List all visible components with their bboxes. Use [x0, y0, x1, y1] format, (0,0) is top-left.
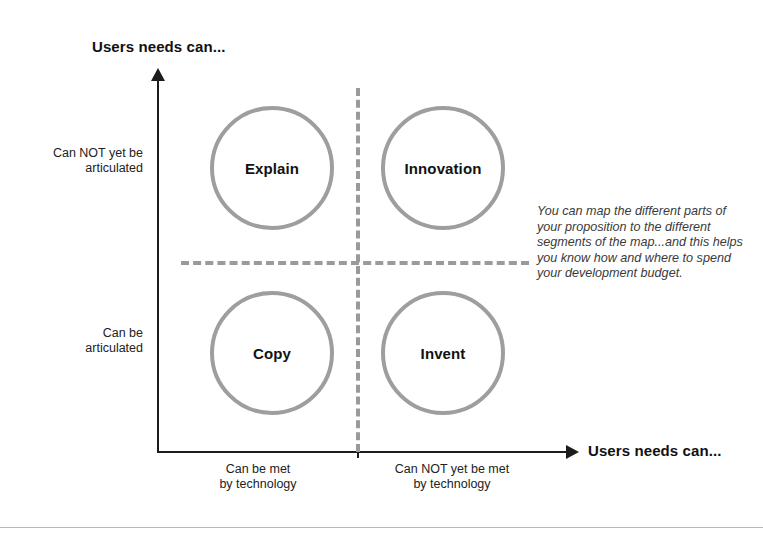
quadrant-label-explain: Explain: [245, 160, 299, 177]
x-axis-midpoint-tick: [357, 451, 359, 458]
vertical-divider-dashed: [356, 88, 360, 452]
y-axis-title: Users needs can...: [92, 38, 226, 55]
quadrant-label-copy: Copy: [253, 345, 291, 362]
x-axis-tick-left-line1: Can be met: [184, 462, 332, 477]
quadrant-label-invent: Invent: [421, 345, 466, 362]
y-axis-tick-upper-line2: articulated: [0, 161, 143, 176]
quadrant-bubble-invent[interactable]: Invent: [381, 291, 505, 415]
x-axis-tick-right-line2: by technology: [366, 477, 538, 492]
y-axis-arrow-icon: [151, 68, 165, 81]
x-axis-tick-right-line1: Can NOT yet be met: [366, 462, 538, 477]
y-axis-tick-lower-line2: articulated: [0, 341, 143, 356]
x-axis-title: Users needs can...: [588, 442, 722, 459]
y-axis-tick-lower: Can be articulated: [0, 326, 143, 356]
y-axis-tick-upper: Can NOT yet be articulated: [0, 146, 143, 176]
x-axis-tick-left: Can be met by technology: [184, 462, 332, 492]
quadrant-bubble-innovation[interactable]: Innovation: [381, 106, 505, 230]
x-axis-line: [157, 451, 569, 453]
y-axis-tick-upper-line1: Can NOT yet be: [0, 146, 143, 161]
annotation-note: You can map the different parts of your …: [537, 204, 749, 282]
quadrant-bubble-copy[interactable]: Copy: [210, 291, 334, 415]
quadrant-bubble-explain[interactable]: Explain: [210, 106, 334, 230]
footer-divider: [0, 527, 763, 528]
horizontal-divider-dashed: [181, 261, 529, 265]
y-axis-tick-lower-line1: Can be: [0, 326, 143, 341]
y-axis-line: [157, 80, 159, 453]
quadrant-label-innovation: Innovation: [405, 160, 482, 177]
x-axis-tick-left-line2: by technology: [184, 477, 332, 492]
diagram-canvas: Users needs can... Can NOT yet be articu…: [0, 0, 763, 542]
x-axis-tick-right: Can NOT yet be met by technology: [366, 462, 538, 492]
x-axis-arrow-icon: [566, 445, 579, 459]
